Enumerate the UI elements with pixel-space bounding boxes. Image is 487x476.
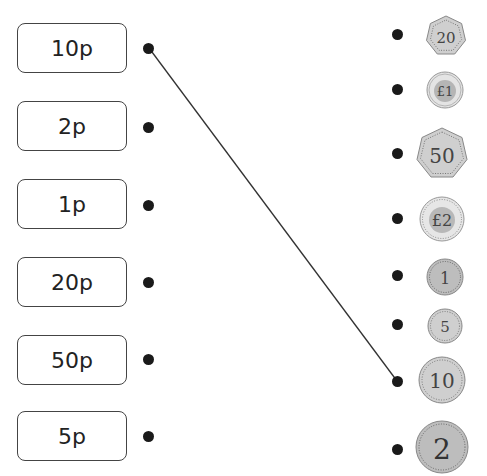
coin-dot-5[interactable] [392, 319, 403, 330]
label-text: 1p [58, 192, 86, 217]
svg-text:1: 1 [440, 269, 450, 288]
label-box-5p[interactable]: 5p [17, 411, 127, 461]
label-box-10p[interactable]: 10p [17, 23, 127, 73]
label-box-20p[interactable]: 20p [17, 257, 127, 307]
coin-20p-icon: 20 [424, 14, 468, 58]
svg-text:£1: £1 [437, 84, 454, 99]
svg-text:10: 10 [429, 369, 454, 393]
svg-text:£2: £2 [432, 211, 452, 230]
label-text: 20p [51, 270, 93, 295]
coin-dot-10[interactable] [392, 376, 403, 387]
coin-20p: 20 [424, 14, 468, 58]
coin-2pound-icon: £2 [418, 195, 466, 243]
coin-2p: 2 [414, 419, 470, 475]
coin-1p-icon: 1 [425, 257, 465, 297]
coin-dot-1pound[interactable] [392, 84, 403, 95]
svg-text:2: 2 [433, 433, 451, 466]
svg-text:20: 20 [436, 29, 455, 47]
coin-dot-20[interactable] [392, 29, 403, 40]
label-text: 2p [58, 114, 86, 139]
label-dot-10p[interactable] [143, 43, 154, 54]
coin-dot-2pound[interactable] [392, 213, 403, 224]
coin-10p: 10 [417, 355, 467, 405]
coin-dot-50[interactable] [392, 148, 403, 159]
svg-text:50: 50 [429, 144, 454, 168]
coin-1pound: £1 [425, 70, 465, 110]
coin-1p: 1 [425, 257, 465, 297]
label-box-1p[interactable]: 1p [17, 179, 127, 229]
coin-5p: 5 [426, 307, 464, 345]
label-text: 50p [51, 348, 93, 373]
label-dot-20p[interactable] [143, 277, 154, 288]
label-dot-5p[interactable] [143, 431, 154, 442]
label-text: 10p [51, 36, 93, 61]
coin-1pound-icon: £1 [425, 70, 465, 110]
label-box-2p[interactable]: 2p [17, 101, 127, 151]
label-dot-2p[interactable] [143, 122, 154, 133]
label-dot-50p[interactable] [143, 354, 154, 365]
label-text: 5p [58, 424, 86, 449]
coin-2p-icon: 2 [414, 419, 470, 475]
label-box-50p[interactable]: 50p [17, 335, 127, 385]
coin-10p-icon: 10 [417, 355, 467, 405]
svg-text:5: 5 [440, 318, 450, 336]
coin-50p-icon: 50 [414, 126, 470, 182]
coin-dot-1[interactable] [392, 270, 403, 281]
coin-dot-2[interactable] [392, 444, 403, 455]
label-dot-1p[interactable] [143, 200, 154, 211]
coin-5p-icon: 5 [426, 307, 464, 345]
coin-2pound: £2 [418, 195, 466, 243]
coin-50p: 50 [414, 126, 470, 182]
